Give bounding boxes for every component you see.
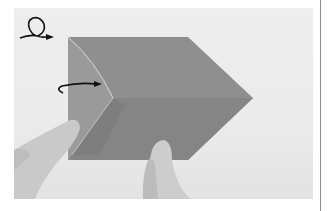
origami-illustration bbox=[0, 0, 327, 211]
turn-over-icon bbox=[20, 18, 54, 40]
